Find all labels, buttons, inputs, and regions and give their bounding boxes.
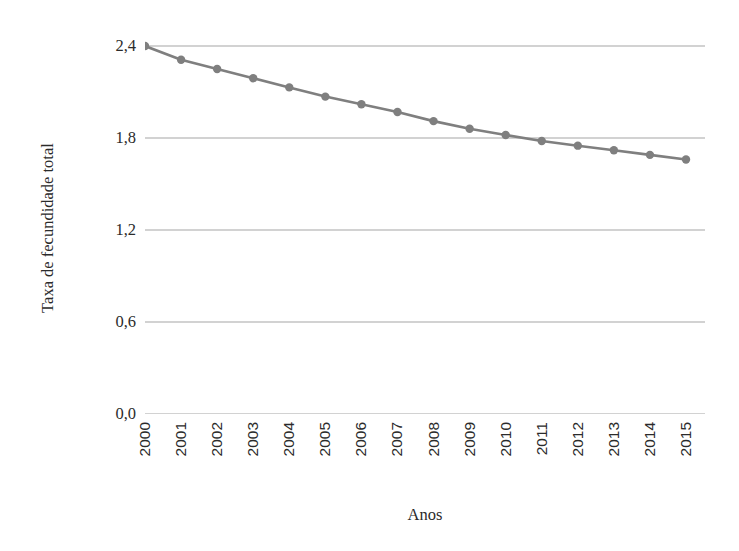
data-line-taxa-de-fecundidade-total (145, 46, 686, 159)
gridlines (145, 46, 705, 414)
data-point-marker (538, 137, 546, 145)
x-tick-label: 2008 (426, 422, 442, 492)
data-point-marker (574, 141, 582, 149)
x-tick-label: 2015 (678, 422, 694, 492)
y-axis-tick-labels: 0,00,61,21,82,4 (80, 0, 136, 430)
data-point-marker (321, 92, 329, 100)
data-point-marker (285, 83, 293, 91)
data-point-marker (177, 56, 185, 64)
data-point-marker (213, 65, 221, 73)
x-tick-label: 2014 (642, 422, 658, 492)
data-point-marker (393, 108, 401, 116)
data-point-marker (610, 146, 618, 154)
x-tick-label: 2003 (245, 422, 261, 492)
data-point-marker (357, 100, 365, 108)
plot-area (145, 40, 705, 414)
data-point-marker (249, 74, 257, 82)
y-tick-label: 1,2 (80, 222, 136, 239)
x-tick-label: 2006 (353, 422, 369, 492)
x-tick-label: 2009 (462, 422, 478, 492)
x-tick-label: 2012 (570, 422, 586, 492)
x-tick-label: 2013 (606, 422, 622, 492)
line-chart-svg (145, 40, 705, 414)
y-tick-label: 2,4 (80, 38, 136, 55)
data-point-marker (501, 131, 509, 139)
y-axis-title: Taxa de fecundidade total (38, 88, 58, 368)
data-point-marker (465, 125, 473, 133)
x-axis-title: Anos (145, 505, 705, 525)
chart-figure: Taxa de fecundidade total 0,00,61,21,82,… (0, 0, 739, 551)
x-tick-label: 2010 (498, 422, 514, 492)
data-point-marker (429, 117, 437, 125)
data-point-markers (145, 42, 690, 164)
y-tick-label: 1,8 (80, 130, 136, 147)
data-point-marker (682, 155, 690, 163)
y-tick-label: 0,6 (80, 314, 136, 331)
y-tick-label: 0,0 (80, 406, 136, 423)
data-point-marker (145, 42, 149, 50)
x-tick-label: 2005 (317, 422, 333, 492)
x-tick-label: 2002 (209, 422, 225, 492)
x-tick-label: 2004 (281, 422, 297, 492)
cut-off-title-strip (45, 0, 695, 5)
x-tick-label: 2011 (534, 422, 550, 492)
x-tick-label: 2007 (389, 422, 405, 492)
x-tick-label: 2001 (173, 422, 189, 492)
data-point-marker (646, 151, 654, 159)
x-axis-tick-labels: 2000200120022003200420052006200720082009… (145, 414, 705, 500)
x-tick-label: 2000 (137, 422, 153, 492)
